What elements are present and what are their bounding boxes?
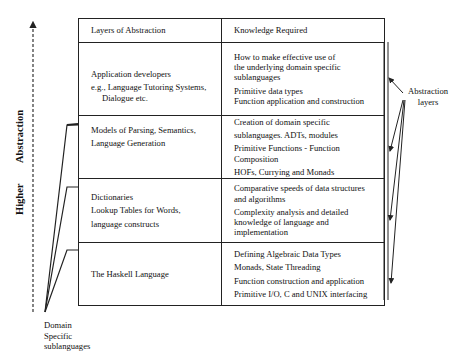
layer-text: The Haskell Language: [91, 269, 221, 279]
knowledge-text: Complexity analysis and detailed: [234, 207, 384, 217]
header-layers: Layers of Abstraction: [79, 19, 222, 43]
table-row: Models of Parsing, Semantics, Language G…: [79, 116, 385, 179]
layer-text: Language Generation: [91, 138, 221, 148]
abstraction-table: Layers of Abstraction Knowledge Required…: [78, 18, 385, 306]
abstraction-label: Abstraction: [14, 110, 25, 163]
label-line: layers: [408, 97, 448, 108]
abstraction-layers-label: Abstraction layers: [408, 86, 448, 107]
layer-text: Lookup Tables for Words,: [91, 205, 221, 215]
knowledge-text: Primitive data types: [234, 86, 384, 96]
knowledge-text: Defining Algebraic Data Types: [234, 249, 384, 259]
layer-text: Dialogue etc.: [91, 93, 221, 103]
knowledge-text: knowledge of language and implementation: [234, 217, 384, 238]
knowledge-text: Monads, State Threading: [234, 262, 384, 272]
knowledge-text: the underlying domain specific: [234, 62, 384, 72]
knowledge-text: sublanguages. ADTs, modules: [234, 130, 384, 140]
knowledge-text: Primitive I/O, C and UNIX interfacing: [234, 289, 384, 299]
knowledge-text: Creation of domain specific: [234, 117, 384, 127]
knowledge-text: HOFs, Currying and Monads: [234, 167, 384, 177]
table-row: Application developers e.g., Language Tu…: [79, 43, 385, 116]
label-line: Specific: [44, 331, 90, 342]
table-row: The Haskell Language Defining Algebraic …: [79, 243, 385, 306]
layer-text: Dictionaries: [91, 192, 221, 202]
knowledge-text: Primitive Functions - Function Compositi…: [234, 143, 384, 164]
higher-label: Higher: [14, 184, 25, 216]
layer-text: Models of Parsing, Semantics,: [91, 125, 221, 135]
label-line: Abstraction: [408, 86, 448, 97]
label-line: sublanguages: [44, 341, 90, 352]
layer-text: Application developers: [91, 69, 221, 79]
table-header: Layers of Abstraction Knowledge Required: [79, 19, 385, 43]
knowledge-text: Comparative speeds of data structures: [234, 183, 384, 193]
knowledge-text: Function application and construction: [234, 96, 384, 106]
table-row: Dictionaries Lookup Tables for Words, la…: [79, 179, 385, 243]
knowledge-text: Function construction and application: [234, 276, 384, 286]
label-line: Domain: [44, 320, 90, 331]
knowledge-text: sublanguages: [234, 72, 384, 82]
layer-text: language constructs: [91, 219, 221, 229]
domain-specific-label: Domain Specific sublanguages: [44, 320, 90, 352]
knowledge-text: and algorithms: [234, 194, 384, 204]
header-knowledge: Knowledge Required: [222, 19, 385, 43]
knowledge-text: How to make effective use of: [234, 52, 384, 62]
layer-text: e.g., Language Tutoring Systems,: [91, 82, 221, 92]
